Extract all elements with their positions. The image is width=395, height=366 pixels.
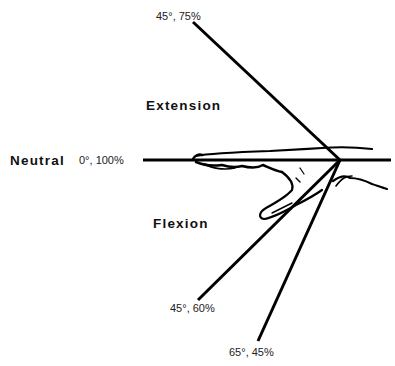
flexion-45-line xyxy=(198,160,340,300)
neutral-angle-label: 0°, 100% xyxy=(79,154,124,166)
extension-label: Extension xyxy=(146,98,221,113)
neutral-label: Neutral xyxy=(10,153,65,168)
flexion-65-line xyxy=(258,160,340,341)
flexion-label: Flexion xyxy=(153,216,209,231)
extension-45-angle-label: 45°, 75% xyxy=(156,10,201,22)
flexion-65-angle-label: 65°, 45% xyxy=(229,346,274,358)
extension-45-line xyxy=(193,22,340,160)
flexion-45-angle-label: 45°, 60% xyxy=(170,302,215,314)
hand-illustration xyxy=(193,147,387,219)
